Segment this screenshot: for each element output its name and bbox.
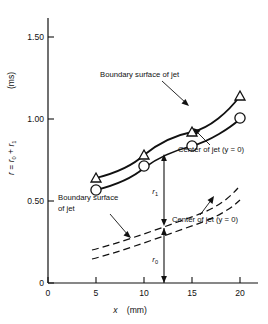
ann-boundary-lower-line2: of jet bbox=[58, 204, 76, 213]
y-tick-label-150: 1.50 bbox=[27, 32, 44, 42]
annotation-boundary-upper: Boundary surface of jet bbox=[100, 70, 189, 106]
x-tick-label-5: 5 bbox=[94, 288, 99, 298]
y-tick-label-0: 0 bbox=[39, 278, 44, 288]
r0-arrowhead-bottom bbox=[161, 276, 167, 283]
line-chart: 0 0.50 1.00 1.50 0 5 10 15 20 x (mm) r =… bbox=[0, 0, 268, 324]
x-tick-label-0: 0 bbox=[46, 288, 51, 298]
annotation-center-upper: Center of jet (y = 0) bbox=[178, 128, 244, 154]
x-tick-label-10: 10 bbox=[139, 288, 149, 298]
data-point-circle-x20 bbox=[235, 113, 245, 123]
data-point-triangle-x20 bbox=[235, 91, 245, 100]
ann-boundary-lower-arrowhead bbox=[124, 231, 132, 238]
y-tick-label-050: 0.50 bbox=[27, 196, 44, 206]
annotation-center-lower: Center of jet (y = 0) bbox=[172, 196, 238, 224]
x-ticks: 0 5 10 15 20 bbox=[46, 277, 245, 298]
y-axis-label: r = r0 + r1 (ms) bbox=[6, 72, 17, 175]
ann-boundary-lower-line1: Boundary surface bbox=[58, 193, 118, 202]
r0-label: r0 bbox=[152, 255, 158, 265]
r1-arrowhead-bottom bbox=[161, 219, 167, 226]
r0-arrowhead-top bbox=[161, 228, 167, 235]
ann-boundary-upper-leader bbox=[162, 81, 186, 103]
measure-arrows: r1 r0 bbox=[152, 154, 167, 283]
x-tick-label-15: 15 bbox=[187, 288, 197, 298]
r1-label: r1 bbox=[152, 187, 158, 197]
x-tick-label-20: 20 bbox=[235, 288, 245, 298]
ann-center-lower-text: Center of jet (y = 0) bbox=[172, 215, 238, 224]
series-center-dashed bbox=[92, 200, 240, 259]
y-tick-label-100: 1.00 bbox=[27, 114, 44, 124]
ann-boundary-upper-text: Boundary surface of jet bbox=[100, 70, 180, 79]
series-center-solid bbox=[96, 119, 240, 190]
ann-center-lower-arrowhead bbox=[208, 196, 215, 204]
figure-container: 0 0.50 1.00 1.50 0 5 10 15 20 x (mm) r =… bbox=[0, 0, 268, 324]
ann-center-upper-text: Center of jet (y = 0) bbox=[178, 145, 244, 154]
data-point-circle-x10 bbox=[139, 161, 149, 171]
solid-curves bbox=[96, 96, 240, 190]
markers-boundary-triangles bbox=[91, 91, 245, 182]
y-axis-units: (ms) bbox=[6, 72, 16, 89]
ann-boundary-lower-leader bbox=[110, 214, 128, 235]
y-ticks: 0 0.50 1.00 1.50 bbox=[27, 32, 54, 288]
series-boundary-solid bbox=[96, 96, 240, 178]
annotation-boundary-lower: Boundary surface of jet bbox=[58, 193, 131, 238]
x-axis-label: x (mm) bbox=[112, 305, 147, 315]
svg-text:r = r0 + r1: r = r0 + r1 bbox=[6, 141, 17, 175]
